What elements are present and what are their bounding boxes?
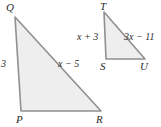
side-label-qp: 3	[1, 59, 6, 69]
side-label-ts: x + 3	[77, 32, 98, 42]
geometry-figure: Q P R 3 x − 5 T S U x + 3 3x − 11	[0, 0, 161, 127]
vertex-label-t: T	[100, 1, 106, 12]
vertex-label-u: U	[140, 61, 148, 72]
vertex-label-p: P	[16, 114, 23, 125]
figure-canvas	[0, 0, 161, 127]
side-label-tu: 3x − 11	[124, 32, 154, 42]
side-label-qr: x − 5	[58, 59, 79, 69]
vertex-label-r: R	[96, 114, 103, 125]
vertex-label-s: S	[100, 61, 106, 72]
vertex-label-q: Q	[6, 2, 14, 13]
